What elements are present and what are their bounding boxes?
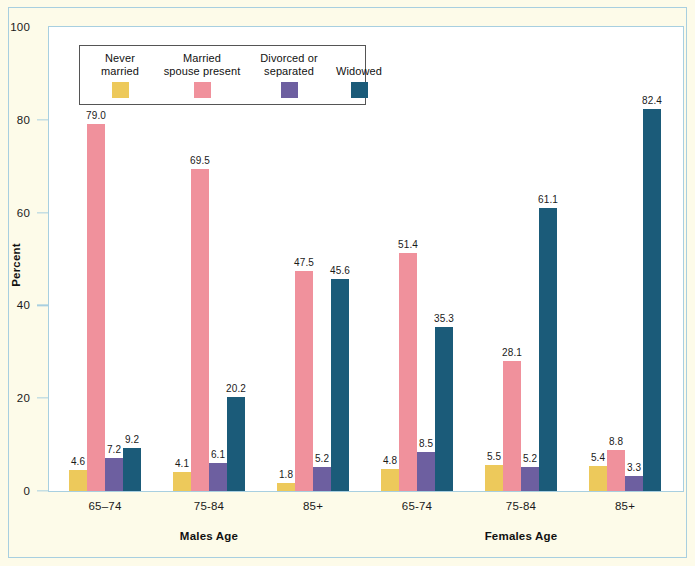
legend-item[interactable]: Widowed xyxy=(328,65,390,98)
bar: 9.2 xyxy=(123,448,141,491)
y-axis: 020406080100 Percent xyxy=(0,0,48,566)
y-tick-label: 20 xyxy=(17,392,30,404)
bar-value-label: 4.1 xyxy=(175,458,189,469)
bar: 5.5 xyxy=(485,465,503,491)
legend-label: married xyxy=(86,65,154,78)
legend-label: Divorced or xyxy=(250,52,328,65)
y-tick-mark xyxy=(37,119,48,120)
bar-value-label: 6.1 xyxy=(211,449,225,460)
legend-item[interactable]: Divorced orseparated xyxy=(250,52,328,98)
bar: 47.5 xyxy=(295,271,313,491)
bar-value-label: 82.4 xyxy=(642,95,662,106)
bar-value-label: 5.2 xyxy=(523,453,537,464)
x-tick-label: 75-84 xyxy=(506,500,536,512)
bar: 45.6 xyxy=(331,279,349,491)
bar: 28.1 xyxy=(503,361,521,491)
x-section-label: Males Age xyxy=(180,530,238,542)
bar-value-label: 79.0 xyxy=(86,110,106,121)
bar: 4.6 xyxy=(69,470,87,491)
y-tick-mark xyxy=(37,490,48,491)
bar-value-label: 5.2 xyxy=(315,453,329,464)
bar-value-label: 45.6 xyxy=(330,265,350,276)
bar-value-label: 4.6 xyxy=(71,456,85,467)
bar: 20.2 xyxy=(227,397,245,491)
chart-figure: 020406080100 Percent 4.679.07.29.24.169.… xyxy=(0,0,695,566)
bar: 3.3 xyxy=(625,476,643,491)
bar-value-label: 28.1 xyxy=(502,347,522,358)
bar: 69.5 xyxy=(191,169,209,491)
bar-value-label: 8.8 xyxy=(609,436,623,447)
x-tick-label: 75-84 xyxy=(194,500,224,512)
bar: 7.2 xyxy=(105,458,123,491)
legend-label: Married xyxy=(154,52,250,65)
legend-item[interactable]: Marriedspouse present xyxy=(154,52,250,98)
bar: 8.5 xyxy=(417,452,435,491)
bar-value-label: 4.8 xyxy=(383,455,397,466)
bar-value-label: 61.1 xyxy=(538,194,558,205)
bar-value-label: 8.5 xyxy=(419,438,433,449)
bar: 1.8 xyxy=(277,483,295,491)
bar: 5.2 xyxy=(521,467,539,491)
y-tick-mark xyxy=(37,305,48,306)
y-tick-label: 0 xyxy=(23,485,30,497)
bar: 79.0 xyxy=(87,124,105,491)
bar-value-label: 51.4 xyxy=(398,239,418,250)
y-tick-mark xyxy=(37,212,48,213)
bar-value-label: 9.2 xyxy=(125,434,139,445)
bar-value-label: 35.3 xyxy=(434,313,454,324)
bar: 51.4 xyxy=(399,253,417,491)
bar-value-label: 47.5 xyxy=(294,257,314,268)
legend-label: Widowed xyxy=(328,65,390,78)
bar: 35.3 xyxy=(435,327,453,491)
bar: 5.2 xyxy=(313,467,331,491)
bar: 61.1 xyxy=(539,208,557,492)
legend-swatch xyxy=(281,82,298,98)
bar-value-label: 69.5 xyxy=(190,155,210,166)
bar: 6.1 xyxy=(209,463,227,491)
x-tick-label: 85+ xyxy=(615,500,635,512)
x-section-label: Females Age xyxy=(485,530,558,542)
legend-swatch xyxy=(351,82,368,98)
x-tick-label: 65-74 xyxy=(402,500,432,512)
legend-label: separated xyxy=(250,65,328,78)
legend-label: spouse present xyxy=(154,65,250,78)
legend-label: Never xyxy=(86,52,154,65)
y-tick-label: 60 xyxy=(17,207,30,219)
bar: 82.4 xyxy=(643,109,661,491)
y-tick-label: 80 xyxy=(17,114,30,126)
legend-item[interactable]: Nevermarried xyxy=(86,52,154,98)
bar: 5.4 xyxy=(589,466,607,491)
y-tick-mark xyxy=(37,398,48,399)
bar: 8.8 xyxy=(607,450,625,491)
bar: 4.1 xyxy=(173,472,191,491)
bar-value-label: 1.8 xyxy=(279,469,293,480)
bar-value-label: 5.4 xyxy=(591,452,605,463)
y-tick-label: 100 xyxy=(10,21,30,33)
bar: 4.8 xyxy=(381,469,399,491)
chart-legend: NevermarriedMarriedspouse presentDivorce… xyxy=(79,45,366,105)
legend-swatch xyxy=(194,82,211,98)
plot-frame: 4.679.07.29.24.169.56.120.21.847.55.245.… xyxy=(48,26,684,492)
y-axis-title: Percent xyxy=(10,225,22,305)
bar-value-label: 20.2 xyxy=(226,383,246,394)
bar-value-label: 7.2 xyxy=(107,444,121,455)
x-tick-label: 65–74 xyxy=(89,500,122,512)
x-tick-label: 85+ xyxy=(303,500,323,512)
bar-value-label: 3.3 xyxy=(627,462,641,473)
legend-swatch xyxy=(112,82,129,98)
bar-value-label: 5.5 xyxy=(487,451,501,462)
